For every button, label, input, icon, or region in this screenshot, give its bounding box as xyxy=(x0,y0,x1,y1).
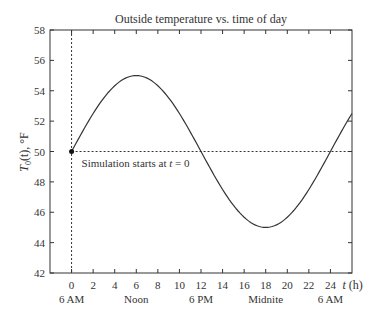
x-tick-label: 12 xyxy=(196,279,207,291)
y-tick-label: 44 xyxy=(34,237,46,249)
x-tick-label: 8 xyxy=(155,279,161,291)
x-axis-label: t (h) xyxy=(342,278,362,292)
x-tick-label: 4 xyxy=(112,279,118,291)
x-tick-label: 18 xyxy=(260,279,272,291)
y-tick-labels: 424446485052545658 xyxy=(34,24,46,279)
y-axis-label: T0(t), °F xyxy=(17,132,33,172)
x-tick-label: 22 xyxy=(303,279,314,291)
chart: Outside temperature vs. time of day 4244… xyxy=(0,0,382,315)
chart-title: Outside temperature vs. time of day xyxy=(115,12,287,26)
y-tick-label: 42 xyxy=(34,267,45,279)
x-tick-label: 24 xyxy=(325,279,337,291)
x-tick-label: 2 xyxy=(90,279,96,291)
time-label: Noon xyxy=(124,293,149,305)
simulation-start-annotation: Simulation starts at t = 0 xyxy=(82,157,190,169)
y-tick-label: 48 xyxy=(34,176,46,188)
start-point-marker xyxy=(69,149,74,154)
x-tick-label: 0 xyxy=(69,279,75,291)
time-label: 6 AM xyxy=(318,293,344,305)
y-tick-label: 52 xyxy=(34,115,45,127)
time-label: 6 PM xyxy=(189,293,213,305)
x-tick-label: 6 xyxy=(134,279,140,291)
x-tick-label: 10 xyxy=(174,279,186,291)
x-tick-label: 14 xyxy=(217,279,229,291)
y-tick-label: 50 xyxy=(34,146,46,158)
x-tick-labels: 024681012141618202224 xyxy=(69,279,337,291)
time-of-day-labels: 6 AMNoon6 PMMidnite6 AM xyxy=(59,293,343,305)
x-tick-label: 16 xyxy=(239,279,251,291)
time-label: Midnite xyxy=(248,293,283,305)
y-tick-label: 54 xyxy=(34,85,46,97)
y-tick-label: 58 xyxy=(34,24,46,36)
y-tick-label: 56 xyxy=(34,54,46,66)
y-tick-label: 46 xyxy=(34,206,46,218)
x-tick-label: 20 xyxy=(282,279,294,291)
time-label: 6 AM xyxy=(59,293,85,305)
